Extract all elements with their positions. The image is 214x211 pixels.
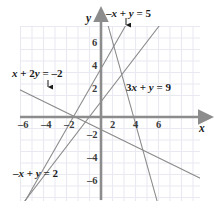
x-tick--2: –2 [64, 120, 75, 131]
coordinate-plane-graph [0, 0, 214, 211]
y-tick--4: –4 [87, 153, 98, 164]
y-tick--6: –6 [87, 176, 98, 187]
y-axis-label: y [86, 13, 91, 25]
equation-label-neg-x-plus-y-2: –x + y = 2 [13, 168, 58, 179]
y-tick-2: 2 [92, 84, 97, 95]
y-tick-6: 6 [92, 38, 97, 49]
equation-label-neg-x-plus-y-5: –x + y = 5 [106, 8, 151, 19]
y-tick-4: 4 [92, 61, 97, 72]
equation-lines [14, 17, 204, 211]
equation-label-3x-plus-y-9: 3x + y = 9 [126, 82, 171, 93]
x-tick--4: –4 [41, 120, 52, 131]
x-tick-6: 6 [156, 120, 161, 131]
line-3x-plus-y-9 [106, 18, 161, 211]
y-tick--2: –2 [87, 130, 98, 141]
x-tick-2: 2 [110, 120, 115, 131]
x-tick-4: 4 [133, 120, 138, 131]
equation-label-x-plus-2y-neg2: x + 2y = –2 [12, 68, 62, 79]
x-tick--6: –6 [18, 120, 29, 131]
x-axis-label: x [199, 123, 205, 135]
